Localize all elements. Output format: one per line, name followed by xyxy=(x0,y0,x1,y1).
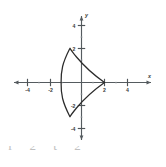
y-minor-dot-minus3 xyxy=(81,116,83,118)
x-axis-arrow-right xyxy=(147,81,152,85)
y-axis xyxy=(80,16,84,140)
x-axis-label: x xyxy=(147,73,152,79)
x-tick-label-2: 2 xyxy=(103,87,106,93)
y-tick-label-minus2: -2 xyxy=(71,103,76,109)
deltoid-curve-chart: -4 -2 2 4 4 2 -2 -4 y x xyxy=(0,0,166,146)
x-tick-label-4: 4 xyxy=(126,87,129,93)
y-tick-label-4: 4 xyxy=(73,23,76,29)
x-axis xyxy=(14,81,151,85)
y-axis-arrow-top xyxy=(80,16,84,21)
y-tick-label-minus4: -4 xyxy=(71,126,76,132)
y-axis-arrow-bottom xyxy=(80,136,84,141)
y-minor-dot-3 xyxy=(81,36,83,38)
x-minor-dot-3 xyxy=(115,82,117,84)
x-tick-label-minus2: -2 xyxy=(48,87,53,93)
x-minor-dot-1 xyxy=(92,82,94,84)
caption-partial-text: f 2 t 2 xyxy=(8,146,166,154)
x-minor-dot-minus3 xyxy=(38,82,40,84)
x-axis-arrow-left xyxy=(14,81,19,85)
y-minor-dot-minus1 xyxy=(81,93,83,95)
y-axis-label: y xyxy=(84,12,89,18)
y-tick-label-2: 2 xyxy=(73,46,76,52)
plot-figure: -4 -2 2 4 4 2 -2 -4 y x xyxy=(0,0,166,146)
y-minor-dot-1 xyxy=(81,59,83,61)
caption-strip: f 2 t 2 xyxy=(0,146,166,167)
x-tick-label-minus4: -4 xyxy=(25,87,30,93)
x-tick-labels: -4 -2 2 4 xyxy=(25,87,129,93)
figure-screenshot: -4 -2 2 4 4 2 -2 -4 y x f 2 t 2 xyxy=(0,0,166,167)
